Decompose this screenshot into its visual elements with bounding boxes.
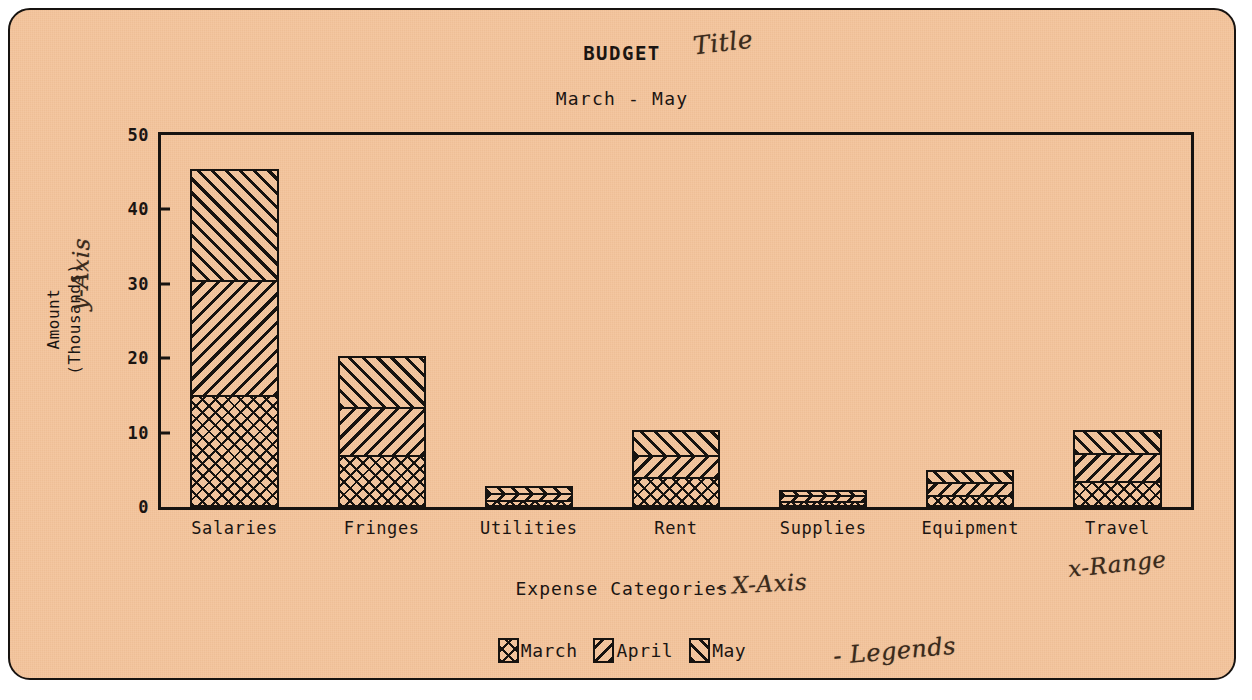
bar-group xyxy=(485,486,573,507)
bar-segment-may xyxy=(632,430,720,455)
x-axis-tick-label: Rent xyxy=(654,518,697,538)
chart-card: BUDGET Title March - May Amount (Thousan… xyxy=(8,8,1236,680)
chart-subtitle: March - May xyxy=(10,88,1234,109)
bar-segment-may xyxy=(338,356,426,407)
bar-segment-march xyxy=(190,395,278,507)
bar-segment-march xyxy=(779,501,867,507)
bar-segment-march xyxy=(1073,481,1161,507)
x-axis-tick-label: Utilities xyxy=(480,518,578,538)
legend-item-march: March xyxy=(498,638,578,663)
y-axis-tick-label: 30 xyxy=(105,274,149,294)
bar-segment-may xyxy=(190,169,278,281)
y-axis-tick-label: 40 xyxy=(105,199,149,219)
bar-segment-april xyxy=(485,493,573,500)
legend-item-april: April xyxy=(593,638,673,663)
x-axis-tick-label: Salaries xyxy=(191,518,278,538)
bar-segment-march xyxy=(632,477,720,507)
legend-swatch-may xyxy=(689,638,710,663)
x-axis-tick-label: Travel xyxy=(1085,518,1150,538)
bar-segment-march xyxy=(338,455,426,507)
y-axis-tick-label: 10 xyxy=(105,423,149,443)
x-axis-tick-label: Supplies xyxy=(780,518,867,538)
screenshot-root: BUDGET Title March - May Amount (Thousan… xyxy=(0,0,1252,700)
x-axis-tick-label: Fringes xyxy=(344,518,420,538)
y-axis-tick-label: 20 xyxy=(105,348,149,368)
handwritten-x-range-note: x-Range xyxy=(1067,546,1168,582)
plot-area: 01020304050 xyxy=(158,132,1194,510)
bar-segment-may xyxy=(485,486,573,493)
legend-swatch-april xyxy=(593,638,614,663)
x-axis-tick-labels: SalariesFringesUtilitiesRentSuppliesEqui… xyxy=(158,518,1194,546)
bar-group xyxy=(338,356,426,507)
bar-group xyxy=(926,470,1014,507)
handwritten-x-axis-note: - X-Axis xyxy=(715,569,807,600)
legend-swatch-march xyxy=(498,638,519,663)
handwritten-y-axis-note: y-Axis xyxy=(66,238,95,311)
bar-segment-april xyxy=(1073,453,1161,481)
bar-group xyxy=(1073,430,1161,507)
legend-label: March xyxy=(521,640,578,661)
x-axis-title: Expense Categories xyxy=(10,578,1234,599)
y-axis-tick-label: 50 xyxy=(105,125,149,145)
legend-label: May xyxy=(712,640,746,661)
bar-segment-march xyxy=(926,495,1014,507)
legend-item-may: May xyxy=(689,638,746,663)
bar-segment-april xyxy=(338,407,426,455)
legend-label: April xyxy=(616,640,673,661)
bar-group xyxy=(779,490,867,507)
bar-segment-may xyxy=(926,470,1014,483)
chart-legend: MarchAprilMay xyxy=(10,638,1234,663)
x-axis-tick-label: Equipment xyxy=(922,518,1020,538)
bar-segment-april xyxy=(190,280,278,395)
bar-group xyxy=(632,430,720,507)
chart-title: BUDGET xyxy=(10,42,1234,64)
plot-inner: 01020304050 xyxy=(161,135,1191,507)
bar-segment-may xyxy=(1073,430,1161,453)
bar-segment-april xyxy=(926,482,1014,495)
bar-series-container xyxy=(161,135,1191,507)
y-axis-label-line1: Amount xyxy=(43,219,64,419)
bar-group xyxy=(190,169,278,508)
y-axis-tick-label: 0 xyxy=(105,497,149,517)
bar-segment-april xyxy=(632,455,720,477)
bar-segment-march xyxy=(485,500,573,507)
